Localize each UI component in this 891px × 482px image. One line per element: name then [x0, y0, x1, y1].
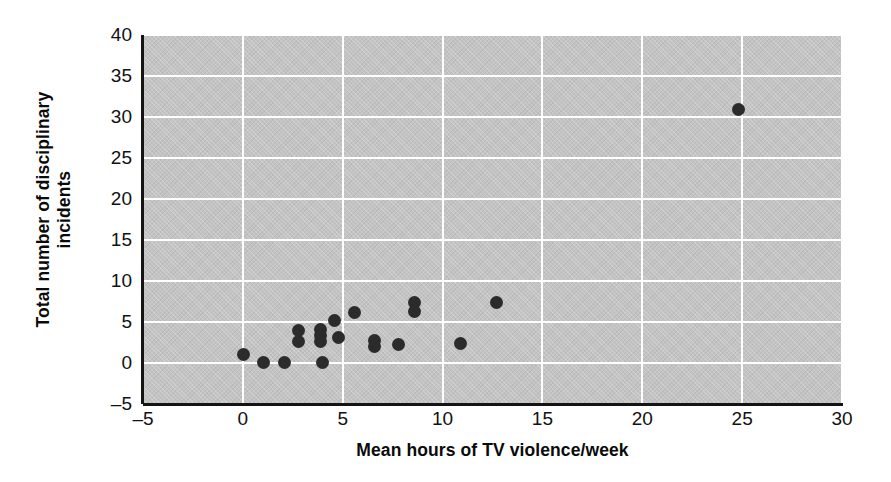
data-point: [257, 356, 270, 369]
data-point: [328, 314, 341, 327]
data-point: [314, 335, 327, 348]
gridline-horizontal: [143, 157, 842, 159]
y-tick-label: 10: [84, 270, 132, 292]
y-tick-label: 25: [84, 147, 132, 169]
y-tick-label: 15: [84, 229, 132, 251]
y-tick-label: 20: [84, 188, 132, 210]
y-tick-label: 30: [84, 106, 132, 128]
x-tick-label: 10: [413, 408, 473, 430]
scatter-plot-figure: Total number of disciplinary incidents –…: [0, 0, 891, 482]
gridline-horizontal: [143, 280, 842, 282]
y-axis-title-line1: Total number of disciplinary: [33, 92, 53, 328]
x-tick-label: 15: [512, 408, 572, 430]
gridline-vertical: [342, 35, 344, 404]
data-point: [454, 337, 467, 350]
gridline-horizontal: [143, 362, 842, 364]
x-tick-label: 0: [213, 408, 273, 430]
data-point: [316, 356, 329, 369]
data-point: [490, 296, 503, 309]
data-point: [348, 306, 361, 319]
y-axis-title-line2: incidents: [54, 92, 75, 328]
gridline-vertical: [741, 35, 743, 404]
gridline-horizontal: [143, 116, 842, 118]
x-tick-label: –5: [113, 408, 173, 430]
x-tick-label: 5: [313, 408, 373, 430]
plot-area: [143, 35, 842, 404]
gridline-horizontal: [143, 239, 842, 241]
gridline-horizontal: [143, 321, 842, 323]
y-tick-label: 40: [84, 24, 132, 46]
y-tick-label: 35: [84, 65, 132, 87]
data-point: [237, 348, 250, 361]
gridline-vertical: [641, 35, 643, 404]
x-tick-label: 30: [812, 408, 872, 430]
x-axis-title: Mean hours of TV violence/week: [143, 440, 842, 461]
gridline-vertical: [442, 35, 444, 404]
y-tick-label: 5: [84, 311, 132, 333]
y-tick-label: 0: [84, 352, 132, 374]
data-point: [732, 103, 745, 116]
x-tick-label: 20: [612, 408, 672, 430]
gridline-horizontal: [143, 198, 842, 200]
gridline-vertical: [541, 35, 543, 404]
gridline-horizontal: [143, 75, 842, 77]
x-axis-line: [143, 403, 843, 406]
gridline-horizontal: [143, 35, 842, 36]
x-tick-label: 25: [712, 408, 772, 430]
data-point: [292, 335, 305, 348]
gridline-vertical: [841, 35, 842, 404]
data-point: [368, 340, 381, 353]
data-point: [408, 305, 421, 318]
data-point: [278, 356, 291, 369]
y-axis-line: [141, 35, 144, 404]
data-point: [392, 338, 405, 351]
